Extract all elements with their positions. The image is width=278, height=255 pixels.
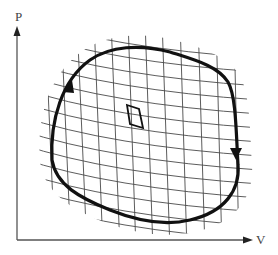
elementary-cycle-cell <box>127 105 143 128</box>
p-axis-label: P <box>15 10 22 23</box>
pv-diagram-canvas <box>0 0 278 255</box>
v-axis-label: V <box>256 233 265 246</box>
p-axis <box>14 26 21 240</box>
v-axis <box>17 237 253 244</box>
grid-lines <box>20 18 260 250</box>
v-axis-arrowhead-icon <box>243 237 253 244</box>
pv-diagram: P V <box>0 0 278 255</box>
p-axis-arrowhead-icon <box>14 26 21 36</box>
